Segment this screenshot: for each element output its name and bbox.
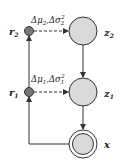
label-r1: r1 — [9, 87, 18, 99]
node-r2 — [25, 27, 34, 36]
node-x-inner — [73, 134, 94, 155]
edge-label-2: Δμ2,Δσ22 — [30, 14, 65, 26]
edge-x-to-r1 — [29, 97, 69, 144]
edge-label-1: Δμ1,Δσ12 — [30, 73, 65, 85]
label-r2: r2 — [9, 26, 18, 38]
vae-diagram: r2 r1 z2 z1 x Δμ2,Δσ22 Δμ1,Δσ12 — [0, 0, 120, 166]
label-z2: z2 — [103, 27, 114, 39]
node-z1 — [69, 78, 97, 106]
node-z2 — [69, 17, 97, 45]
label-z1: z1 — [103, 88, 114, 100]
node-r1 — [25, 88, 34, 97]
label-x: x — [103, 139, 111, 150]
